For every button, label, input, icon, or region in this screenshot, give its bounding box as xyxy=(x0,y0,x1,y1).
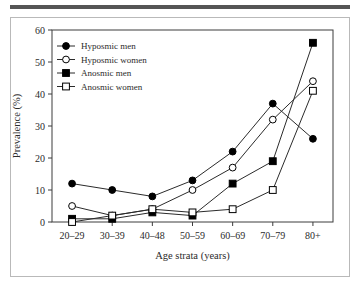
y-tick-label: 60 xyxy=(35,25,45,36)
data-point xyxy=(229,148,236,155)
chart-legend: Hyposmic menHyposmic womenAnosmic menAno… xyxy=(57,41,147,91)
y-tick-label: 20 xyxy=(35,153,45,164)
legend-label: Hyposmic men xyxy=(81,41,136,51)
data-point xyxy=(189,177,196,184)
y-tick-label: 0 xyxy=(40,217,45,228)
series-4 xyxy=(72,91,313,222)
y-tick-label: 10 xyxy=(35,185,45,196)
y-axis-title: Prevalence (%) xyxy=(11,93,23,158)
series-line xyxy=(72,91,313,222)
data-point xyxy=(69,180,76,187)
legend-marker xyxy=(63,43,70,50)
data-point xyxy=(149,206,156,213)
data-point xyxy=(149,193,156,200)
data-point xyxy=(269,187,276,194)
data-point xyxy=(69,219,76,226)
series-markers-3 xyxy=(69,39,317,222)
x-axis-title: Age strata (years) xyxy=(155,250,230,262)
x-tick-label: 30–39 xyxy=(100,230,125,241)
data-point xyxy=(310,78,317,85)
chart-svg: 010203040506020–2930–3940–4850–5960–6970… xyxy=(0,0,360,294)
x-tick-label: 80+ xyxy=(305,230,321,241)
legend-marker xyxy=(63,83,70,90)
y-tick-label: 50 xyxy=(35,57,45,68)
legend-marker xyxy=(63,70,70,77)
legend-label: Anosmic men xyxy=(81,68,132,78)
x-tick-label: 50–59 xyxy=(180,230,205,241)
data-point xyxy=(310,39,317,46)
y-tick-label: 30 xyxy=(35,121,45,132)
data-point xyxy=(189,209,196,216)
legend-label: Hyposmic women xyxy=(81,55,147,65)
figure-container: 010203040506020–2930–3940–4850–5960–6970… xyxy=(0,0,360,294)
data-point xyxy=(229,164,236,171)
x-tick-label: 20–29 xyxy=(60,230,85,241)
legend-marker xyxy=(63,56,70,63)
x-tick-label: 40–48 xyxy=(140,230,165,241)
series-markers-1 xyxy=(69,100,317,200)
legend-label: Anosmic women xyxy=(81,82,143,92)
series-markers-4 xyxy=(69,87,317,225)
data-point xyxy=(189,187,196,194)
data-point xyxy=(310,135,317,142)
data-point xyxy=(269,158,276,165)
data-point xyxy=(269,100,276,107)
line-chart: 010203040506020–2930–3940–4850–5960–6970… xyxy=(0,0,360,294)
data-point xyxy=(310,87,317,94)
x-tick-label: 60–69 xyxy=(220,230,245,241)
data-point xyxy=(229,206,236,213)
data-point xyxy=(109,187,116,194)
data-point xyxy=(109,212,116,219)
series-markers-2 xyxy=(69,78,317,219)
data-point xyxy=(69,203,76,210)
data-point xyxy=(269,116,276,123)
x-tick-label: 70–79 xyxy=(260,230,285,241)
y-tick-label: 40 xyxy=(35,89,45,100)
data-point xyxy=(229,180,236,187)
